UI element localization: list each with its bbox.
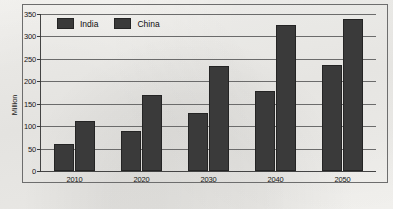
y-axis-tick-label: 250 — [24, 54, 36, 63]
x-axis-tick-label: 2010 — [67, 175, 83, 184]
legend-label-china: China — [137, 19, 159, 29]
y-axis-tick-label: 150 — [24, 99, 36, 108]
bar-india-2050 — [322, 65, 342, 171]
bar-china-2020 — [142, 95, 162, 171]
x-axis-tick-label: 2030 — [201, 175, 217, 184]
bar-china-2050 — [343, 19, 363, 172]
x-axis-tick-label: 2020 — [134, 175, 150, 184]
plot-area: 050100150200250300350 201020202030204020… — [40, 14, 376, 172]
bars-group — [41, 14, 376, 171]
bar-china-2040 — [276, 25, 296, 171]
legend-swatch-india — [57, 18, 74, 29]
y-axis-tick-label: 0 — [32, 167, 36, 176]
legend-entry-india: India — [57, 18, 98, 29]
bar-india-2030 — [188, 113, 208, 171]
legend-entry-china: China — [114, 18, 159, 29]
x-axis-tick-label: 2040 — [268, 175, 284, 184]
y-axis-tick-label: 300 — [24, 32, 36, 41]
y-axis-tick-label: 350 — [24, 10, 36, 19]
legend-label-india: India — [80, 19, 98, 29]
bar-china-2030 — [209, 66, 229, 171]
bar-chart-figure: Million 050100150200250300350 2010202020… — [0, 0, 393, 209]
x-axis-tick-label: 2050 — [335, 175, 351, 184]
y-axis-tick-label: 100 — [24, 122, 36, 131]
bar-india-2020 — [121, 131, 141, 171]
y-axis-title: Million — [10, 94, 19, 115]
y-axis-tick-mark — [37, 171, 41, 172]
y-axis-tick-label: 50 — [28, 144, 36, 153]
chart-legend: IndiaChina — [53, 16, 164, 31]
y-axis-tick-label: 200 — [24, 77, 36, 86]
bar-china-2010 — [75, 121, 95, 171]
bar-india-2040 — [255, 91, 275, 171]
legend-swatch-china — [114, 18, 131, 29]
bar-india-2010 — [54, 144, 74, 171]
